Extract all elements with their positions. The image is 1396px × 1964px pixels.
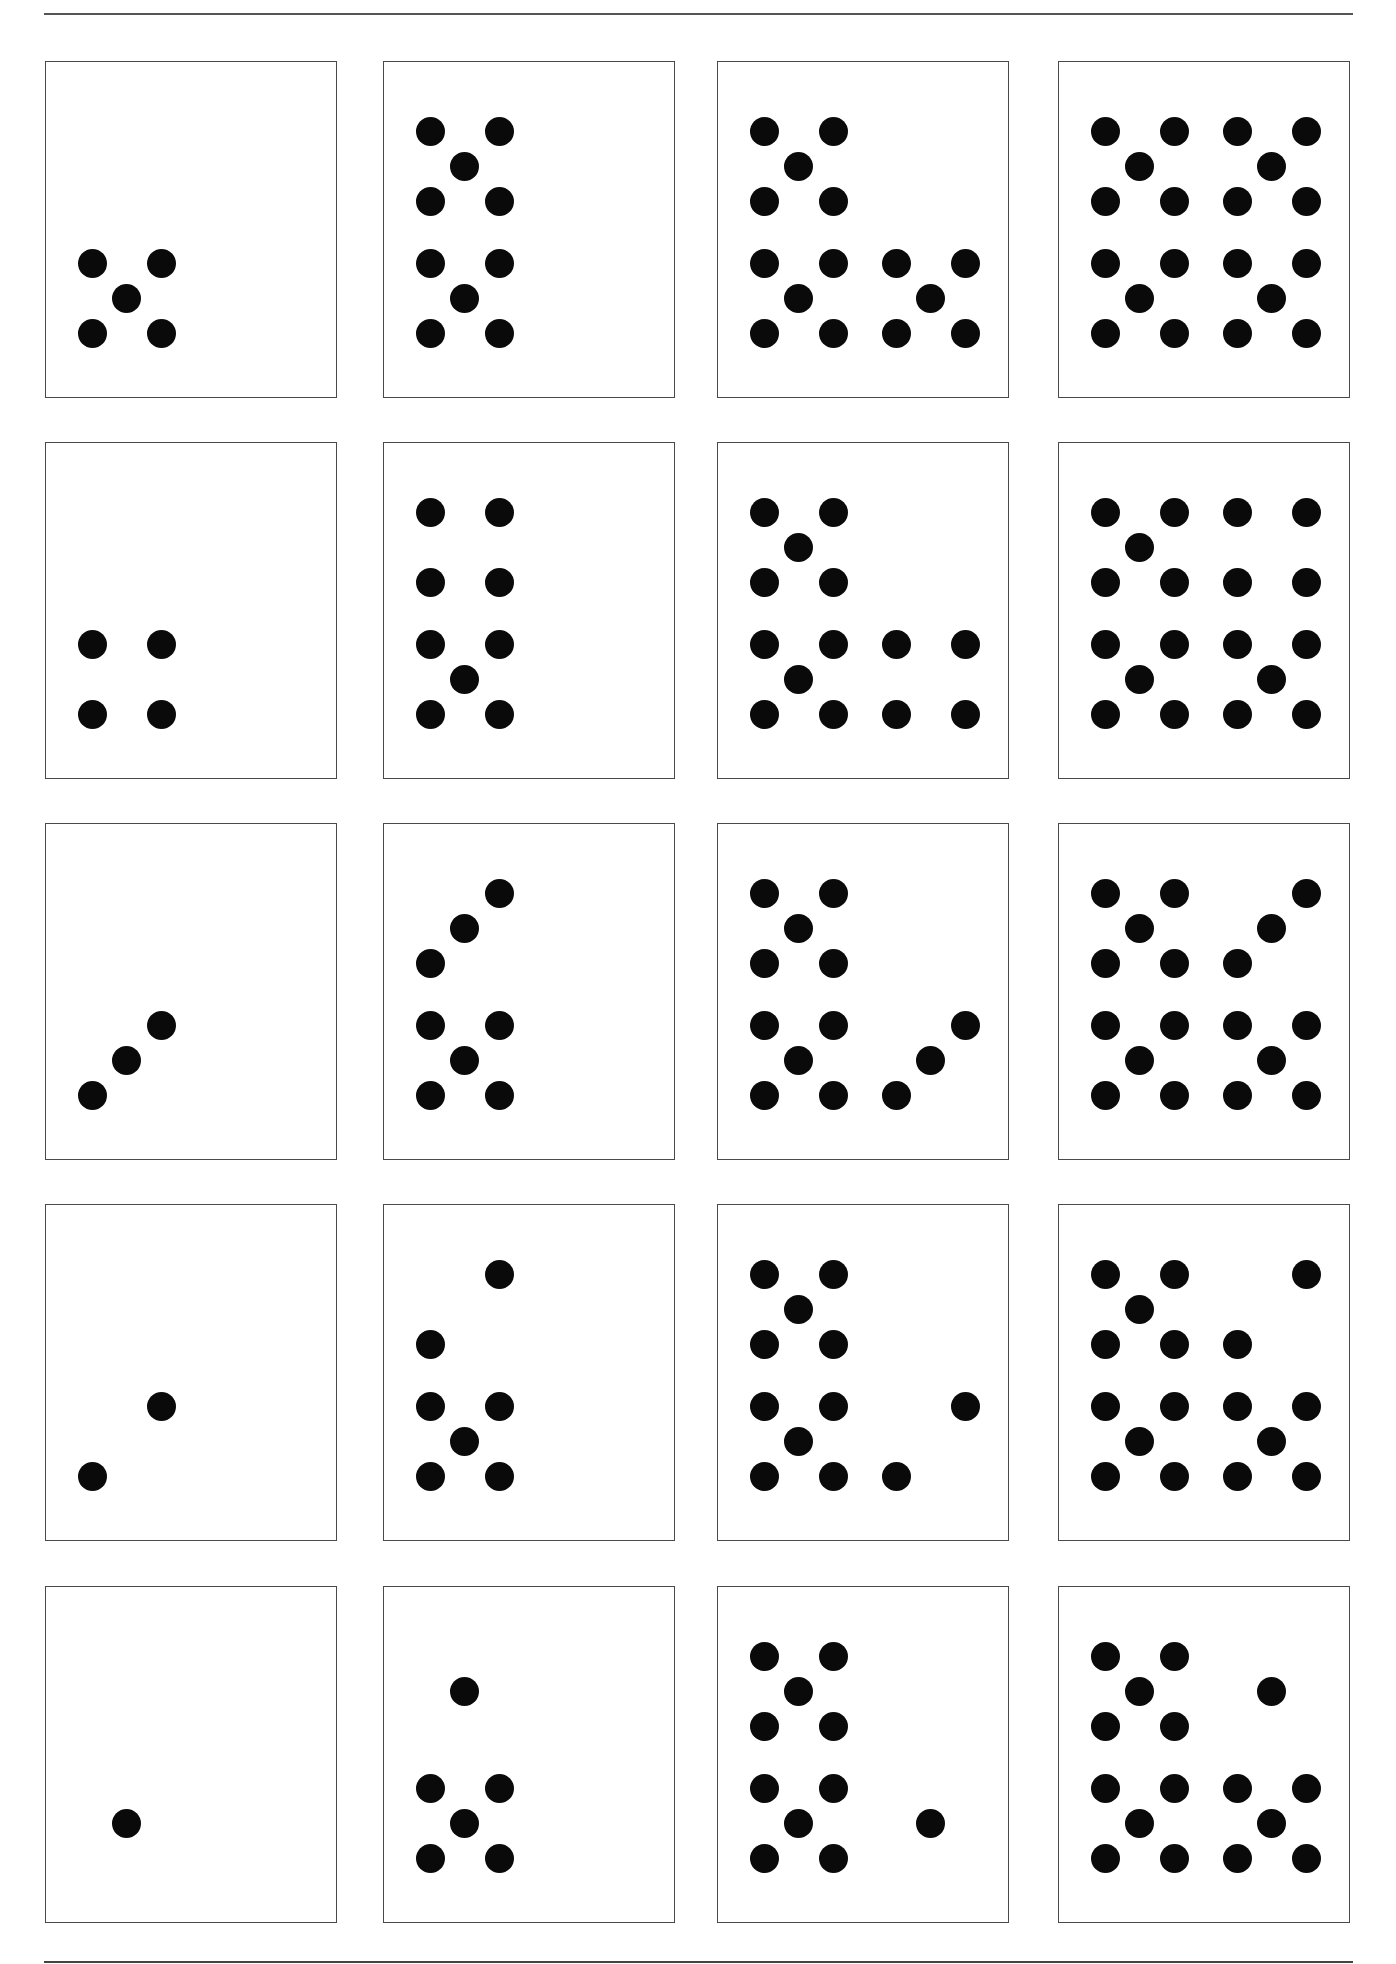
dot-icon <box>1160 1712 1189 1741</box>
dot-icon <box>916 1809 945 1838</box>
dot-card-18 <box>1058 823 1350 1160</box>
dot-icon <box>416 1081 445 1110</box>
dot-card-11 <box>717 1586 1009 1923</box>
dot-icon <box>485 187 514 216</box>
dot-icon <box>147 700 176 729</box>
dot-card-6 <box>383 1586 675 1923</box>
dot-icon <box>1292 630 1321 659</box>
dot-icon <box>1091 1774 1120 1803</box>
dot-icon <box>750 630 779 659</box>
dot-icon <box>416 1011 445 1040</box>
dot-icon <box>1160 1774 1189 1803</box>
dot-icon <box>1223 1392 1252 1421</box>
dot-icon <box>485 1260 514 1289</box>
dot-icon <box>819 1392 848 1421</box>
dot-icon <box>750 1712 779 1741</box>
dot-icon <box>1091 879 1120 908</box>
dot-icon <box>1223 1774 1252 1803</box>
dot-icon <box>1257 914 1286 943</box>
dot-icon <box>147 630 176 659</box>
dot-icon <box>147 249 176 278</box>
dot-icon <box>78 319 107 348</box>
dot-icon <box>147 1011 176 1040</box>
dot-icon <box>819 1642 848 1671</box>
dot-icon <box>1257 1809 1286 1838</box>
dot-icon <box>1292 1011 1321 1040</box>
dot-icon <box>1091 1712 1120 1741</box>
dot-icon <box>819 949 848 978</box>
dot-icon <box>1223 498 1252 527</box>
dot-icon <box>1091 1260 1120 1289</box>
dot-icon <box>1160 498 1189 527</box>
dot-icon <box>1125 665 1154 694</box>
dot-icon <box>750 187 779 216</box>
dot-icon <box>1091 1330 1120 1359</box>
dot-icon <box>416 249 445 278</box>
dot-icon <box>1292 1392 1321 1421</box>
dot-icon <box>750 1011 779 1040</box>
dot-icon <box>1160 319 1189 348</box>
dot-icon <box>819 1011 848 1040</box>
dot-icon <box>112 284 141 313</box>
dot-icon <box>1292 249 1321 278</box>
bottom-rule <box>44 1961 1353 1963</box>
dot-icon <box>416 117 445 146</box>
dot-icon <box>416 1774 445 1803</box>
dot-icon <box>1223 1844 1252 1873</box>
dot-card-16 <box>1058 1586 1350 1923</box>
dot-icon <box>450 665 479 694</box>
dot-card-20 <box>1058 61 1350 398</box>
dot-icon <box>819 1462 848 1491</box>
dot-icon <box>882 319 911 348</box>
dot-icon <box>882 1462 911 1491</box>
dot-icon <box>485 1081 514 1110</box>
dot-icon <box>1091 498 1120 527</box>
dot-card-2 <box>45 1204 337 1541</box>
dot-icon <box>882 1081 911 1110</box>
dot-card-15 <box>717 61 1009 398</box>
dot-icon <box>485 630 514 659</box>
dot-icon <box>1091 319 1120 348</box>
dot-icon <box>1125 914 1154 943</box>
dot-icon <box>784 1809 813 1838</box>
dot-icon <box>1292 1462 1321 1491</box>
dot-icon <box>819 630 848 659</box>
dot-icon <box>750 1260 779 1289</box>
dot-card-19 <box>1058 442 1350 779</box>
dot-icon <box>485 1392 514 1421</box>
dot-icon <box>416 498 445 527</box>
dot-icon <box>1223 117 1252 146</box>
dot-icon <box>1292 700 1321 729</box>
dot-icon <box>750 568 779 597</box>
dot-card-9 <box>383 442 675 779</box>
dot-icon <box>1091 117 1120 146</box>
dot-icon <box>1257 152 1286 181</box>
dot-icon <box>1091 187 1120 216</box>
dot-icon <box>1091 630 1120 659</box>
dot-icon <box>1160 1330 1189 1359</box>
dot-icon <box>819 1844 848 1873</box>
dot-icon <box>1160 187 1189 216</box>
dot-icon <box>78 630 107 659</box>
dot-icon <box>1223 249 1252 278</box>
dot-icon <box>450 914 479 943</box>
dot-icon <box>1257 284 1286 313</box>
dot-icon <box>1223 568 1252 597</box>
dot-card-13 <box>717 823 1009 1160</box>
dot-icon <box>1091 568 1120 597</box>
dot-icon <box>750 879 779 908</box>
dot-icon <box>416 949 445 978</box>
dot-icon <box>1160 568 1189 597</box>
dot-icon <box>916 1046 945 1075</box>
dot-icon <box>416 1330 445 1359</box>
dot-icon <box>416 1392 445 1421</box>
dot-icon <box>882 249 911 278</box>
dot-card-4 <box>45 442 337 779</box>
dot-card-8 <box>383 823 675 1160</box>
dot-icon <box>784 152 813 181</box>
dot-icon <box>784 284 813 313</box>
dot-card-1 <box>45 1586 337 1923</box>
dot-icon <box>1091 700 1120 729</box>
dot-icon <box>1125 152 1154 181</box>
dot-icon <box>450 1677 479 1706</box>
